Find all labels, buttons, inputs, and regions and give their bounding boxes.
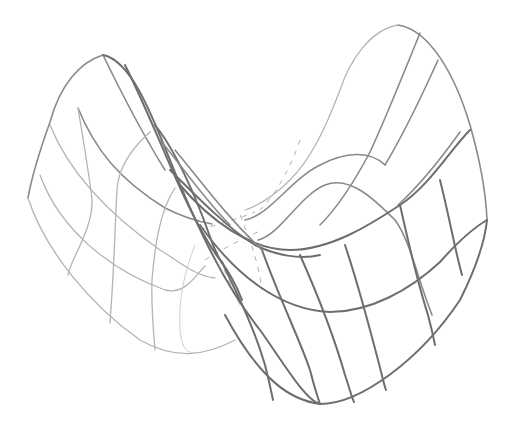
saddle-surface-figure: [0, 0, 513, 428]
front-lobe-lines: [103, 55, 487, 404]
saddle-wireframe: [0, 0, 513, 428]
right-lobe-lines: [245, 25, 487, 315]
